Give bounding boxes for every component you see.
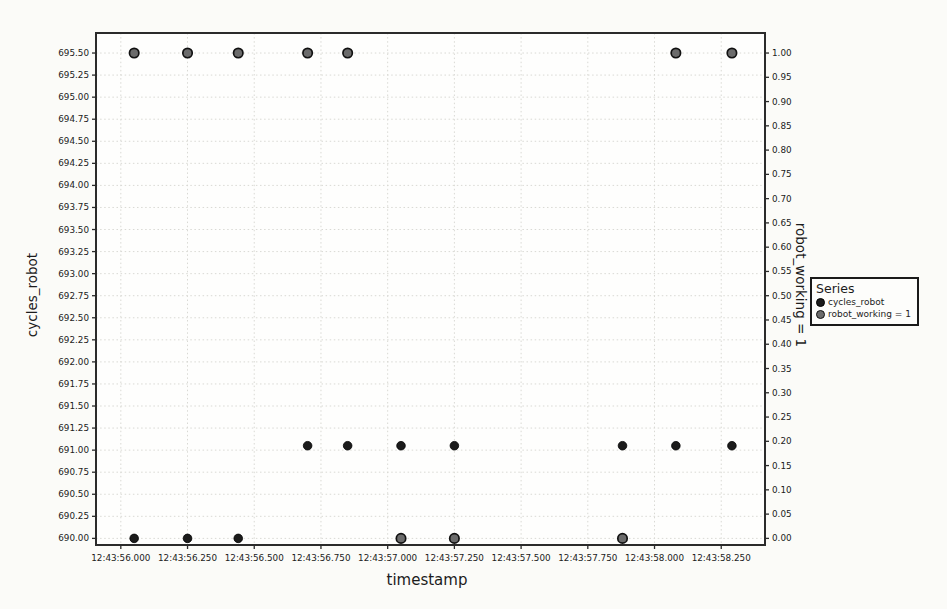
cycles-robot-marker-icon [816, 298, 825, 307]
y-left-tick-label: 695.50 [58, 48, 89, 58]
y-left-tick-label: 695.25 [58, 70, 89, 80]
y-left-tick-label: 692.00 [58, 357, 89, 367]
data-point-cycles-robot [234, 534, 243, 543]
legend-entry-robot-working: robot_working = 1 [816, 308, 911, 320]
y-right-tick-label: 0.10 [772, 485, 792, 495]
y-left-tick-label: 693.50 [58, 225, 89, 235]
y-left-tick-label: 692.25 [58, 335, 89, 345]
y-left-tick-label: 691.25 [58, 423, 89, 433]
data-point-cycles-robot [343, 441, 352, 450]
data-point-cycles-robot [397, 441, 406, 450]
chart-figure: 695.50695.25695.00694.75694.50694.25694.… [0, 0, 947, 609]
y-right-tick-label: 0.15 [772, 461, 792, 471]
data-point-robot-working [671, 48, 680, 57]
data-point-robot-working [234, 48, 243, 57]
y-axis-left-title: cycles_robot [24, 253, 40, 337]
y-right-tick-label: 0.75 [772, 169, 792, 179]
data-point-robot-working [183, 48, 192, 57]
data-point-cycles-robot [450, 441, 459, 450]
y-right-tick-label: 0.30 [772, 388, 792, 398]
data-point-cycles-robot [303, 441, 312, 450]
y-left-tick-label: 690.25 [58, 511, 89, 521]
y-right-tick-label: 0.65 [772, 218, 792, 228]
data-point-cycles-robot [130, 534, 139, 543]
x-tick-label: 12:43:56.500 [225, 553, 284, 563]
y-left-tick-label: 694.25 [58, 158, 89, 168]
y-right-tick-label: 0.40 [772, 339, 792, 349]
data-point-cycles-robot [728, 441, 737, 450]
y-left-tick-label: 693.00 [58, 269, 89, 279]
y-left-tick-label: 691.00 [58, 445, 89, 455]
y-right-tick-label: 0.45 [772, 315, 792, 325]
legend-entry-cycles-robot: cycles_robot [816, 296, 911, 308]
x-tick-label: 12:43:56.750 [291, 553, 350, 563]
robot-working-marker-icon [816, 310, 825, 319]
x-tick-label: 12:43:56.000 [91, 553, 150, 563]
y-right-tick-label: 0.00 [772, 533, 792, 543]
x-tick-label: 12:43:57.000 [358, 553, 417, 563]
legend-entry-label: robot_working = 1 [828, 308, 911, 320]
y-left-tick-label: 694.75 [58, 114, 89, 124]
y-right-tick-label: 0.80 [772, 145, 792, 155]
y-left-tick-label: 695.00 [58, 92, 89, 102]
y-left-tick-label: 690.00 [58, 533, 89, 543]
y-left-tick-label: 691.50 [58, 401, 89, 411]
y-right-tick-label: 0.95 [772, 72, 792, 82]
y-left-tick-label: 692.50 [58, 313, 89, 323]
x-tick-label: 12:43:58.000 [625, 553, 684, 563]
data-point-robot-working [129, 48, 138, 57]
y-left-tick-label: 694.50 [58, 136, 89, 146]
data-point-robot-working [396, 534, 405, 543]
y-right-tick-label: 1.00 [772, 48, 792, 58]
y-left-tick-label: 693.75 [58, 202, 89, 212]
plot-area [96, 33, 765, 545]
data-point-cycles-robot [672, 441, 681, 450]
data-point-robot-working [450, 534, 459, 543]
y-right-tick-label: 0.70 [772, 194, 792, 204]
y-right-tick-label: 0.25 [772, 412, 792, 422]
x-tick-label: 12:43:57.250 [425, 553, 484, 563]
y-left-tick-label: 692.75 [58, 291, 89, 301]
data-point-cycles-robot [618, 441, 627, 450]
y-right-tick-label: 0.20 [772, 436, 792, 446]
y-right-tick-label: 0.85 [772, 121, 792, 131]
data-point-robot-working [343, 48, 352, 57]
y-right-tick-label: 0.50 [772, 291, 792, 301]
data-point-cycles-robot [183, 534, 192, 543]
y-left-tick-label: 690.75 [58, 467, 89, 477]
legend-entry-label: cycles_robot [828, 296, 884, 308]
y-right-tick-label: 0.05 [772, 509, 792, 519]
x-tick-label: 12:43:57.500 [492, 553, 551, 563]
y-left-tick-label: 691.75 [58, 379, 89, 389]
y-left-tick-label: 690.50 [58, 489, 89, 499]
legend-box: Series cycles_robot robot_working = 1 [810, 277, 919, 326]
x-axis-title: timestamp [387, 571, 468, 589]
x-tick-label: 12:43:57.750 [558, 553, 617, 563]
y-right-tick-label: 0.35 [772, 364, 792, 374]
data-point-robot-working [727, 48, 736, 57]
y-left-tick-label: 694.00 [58, 180, 89, 190]
data-point-robot-working [303, 48, 312, 57]
y-left-tick-label: 693.25 [58, 247, 89, 257]
x-tick-label: 12:43:56.250 [158, 553, 217, 563]
y-right-tick-label: 0.55 [772, 266, 792, 276]
x-tick-label: 12:43:58.250 [692, 553, 751, 563]
y-axis-right-title: robot_working = 1 [793, 223, 809, 347]
y-right-tick-label: 0.60 [772, 242, 792, 252]
y-right-tick-label: 0.90 [772, 97, 792, 107]
data-point-robot-working [618, 534, 627, 543]
legend-title: Series [816, 281, 911, 296]
